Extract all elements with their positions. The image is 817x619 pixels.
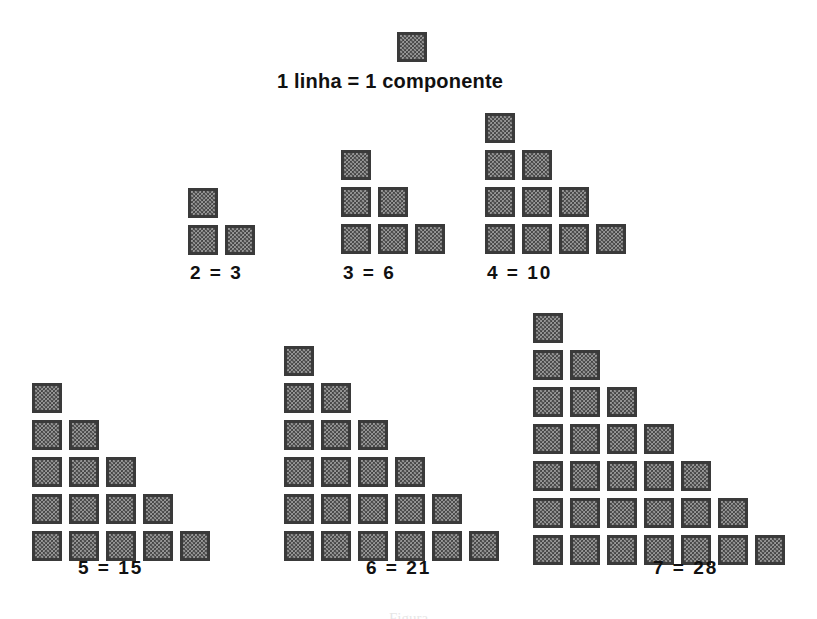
figure-title: 1 linha = 1 componente [277, 70, 503, 93]
component-square [681, 498, 711, 528]
component-square [69, 457, 99, 487]
component-square [225, 225, 255, 255]
component-square [644, 498, 674, 528]
component-square [596, 224, 626, 254]
component-square [378, 224, 408, 254]
component-square [432, 531, 462, 561]
figure-label-group-6: 6 = 21 [366, 557, 431, 579]
component-square [341, 187, 371, 217]
component-square [321, 494, 351, 524]
component-square [559, 224, 589, 254]
component-square [533, 387, 563, 417]
component-square [358, 457, 388, 487]
component-square [321, 531, 351, 561]
component-square [284, 346, 314, 376]
component-square [32, 420, 62, 450]
component-square [607, 461, 637, 491]
component-square [570, 424, 600, 454]
component-square [522, 224, 552, 254]
component-square [522, 150, 552, 180]
component-square [570, 535, 600, 565]
component-square [644, 424, 674, 454]
component-square [69, 420, 99, 450]
bottom-caption: Figura [0, 611, 817, 619]
component-square [284, 494, 314, 524]
component-square [106, 494, 136, 524]
component-square [321, 457, 351, 487]
component-square [378, 187, 408, 217]
component-square [559, 187, 589, 217]
component-square [570, 350, 600, 380]
component-square [485, 150, 515, 180]
component-square [607, 535, 637, 565]
component-square [415, 224, 445, 254]
component-square [321, 383, 351, 413]
figure-label-group-4: 4 = 10 [487, 262, 552, 284]
component-square [284, 383, 314, 413]
component-square [188, 188, 218, 218]
component-square [143, 531, 173, 561]
figure-label-group-5: 5 = 15 [78, 557, 143, 579]
component-square [522, 187, 552, 217]
component-square [69, 494, 99, 524]
component-square [533, 498, 563, 528]
component-square [681, 461, 711, 491]
component-square [395, 457, 425, 487]
component-square [143, 494, 173, 524]
component-square [395, 494, 425, 524]
component-square [570, 461, 600, 491]
component-square [533, 461, 563, 491]
component-square [469, 531, 499, 561]
component-square [607, 387, 637, 417]
component-square [607, 424, 637, 454]
component-square [32, 383, 62, 413]
component-square [358, 420, 388, 450]
component-square [341, 224, 371, 254]
component-square [485, 224, 515, 254]
component-square [485, 187, 515, 217]
component-square [718, 535, 748, 565]
unit-square [397, 32, 427, 62]
component-square [533, 350, 563, 380]
component-square [432, 494, 462, 524]
component-square [284, 420, 314, 450]
figure-canvas: 1 linha = 1 componente 2 = 33 = 64 = 105… [0, 0, 817, 619]
component-square [341, 150, 371, 180]
component-square [644, 461, 674, 491]
component-square [533, 313, 563, 343]
component-square [32, 531, 62, 561]
component-square [570, 387, 600, 417]
component-square [718, 498, 748, 528]
component-square [755, 535, 785, 565]
component-square [607, 498, 637, 528]
figure-label-group-7: 7 = 28 [653, 557, 718, 579]
component-square [180, 531, 210, 561]
component-square [32, 457, 62, 487]
component-square [570, 498, 600, 528]
component-square [106, 457, 136, 487]
figure-label-group-2: 2 = 3 [190, 262, 243, 284]
component-square [485, 113, 515, 143]
component-square [32, 494, 62, 524]
figure-label-group-3: 3 = 6 [343, 262, 396, 284]
component-square [533, 424, 563, 454]
component-square [284, 531, 314, 561]
component-square [533, 535, 563, 565]
component-square [284, 457, 314, 487]
component-square [358, 494, 388, 524]
component-square [188, 225, 218, 255]
component-square [321, 420, 351, 450]
